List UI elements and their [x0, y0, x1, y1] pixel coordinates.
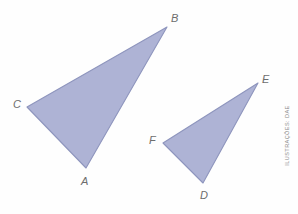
vertex-label-b: B: [171, 13, 179, 24]
vertex-label-a: A: [81, 176, 89, 187]
vertex-label-d: D: [200, 190, 208, 201]
geometry-figure: A B C D E F ILUSTRAÇÕES: DAE: [0, 0, 298, 214]
figure-canvas: [0, 0, 298, 214]
illustration-credit: ILUSTRAÇÕES: DAE: [284, 97, 291, 175]
triangle-abc-shape: [27, 27, 167, 168]
vertex-label-f: F: [149, 135, 156, 146]
triangle-def-shape: [163, 83, 258, 183]
vertex-label-e: E: [262, 74, 270, 85]
vertex-label-c: C: [13, 99, 21, 110]
